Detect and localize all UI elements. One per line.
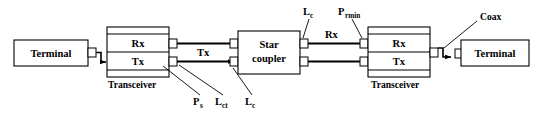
coax-left-line (96, 53, 106, 63)
parameter-l-c-top-base: L (303, 6, 310, 17)
parameter-l-ct-base: L (215, 96, 222, 107)
coax-annotation-label: Coax (480, 11, 502, 22)
star-coupler-label-line1: Star (259, 39, 279, 50)
parameter-l-c-left-sub: c (252, 102, 256, 110)
transceiver-right-rx-label: Rx (393, 38, 407, 49)
leader-p-rmin (352, 19, 362, 38)
parameter-p-rmin-base: P (338, 6, 345, 17)
parameter-l-ct-sub: ct (222, 102, 228, 110)
transceiver-left-tx-label: Tx (132, 56, 145, 67)
coax-right-line (438, 48, 451, 57)
leader-p-s (163, 66, 200, 95)
transceiver-left-caption: Transceiver (108, 79, 157, 90)
parameter-label-p-s: P s (193, 96, 203, 110)
star-coupler-in-lower-connector-icon (230, 57, 238, 66)
terminal-left-connector-icon (88, 48, 96, 57)
leader-l-c-top (303, 19, 309, 38)
terminal-left-label: Terminal (30, 48, 71, 59)
parameter-p-s-base: P (193, 96, 200, 107)
star-coupler-label-line2: coupler (252, 53, 286, 64)
star-coupler-in-upper-connector-icon (230, 39, 238, 48)
parameter-label-l-c-top: L c (303, 6, 314, 20)
transceiver-left-rx-connector-icon (169, 39, 177, 48)
parameter-label-l-c-left: L c (245, 96, 256, 110)
parameter-l-c-left-base: L (245, 96, 252, 107)
rx-right-signal-label: Rx (325, 29, 339, 40)
star-coupler-out-upper-connector-icon (300, 39, 308, 48)
transceiver-left-group: Rx Tx Transceiver (107, 27, 177, 90)
fiber-left-pair: Tx (177, 44, 237, 62)
diagram-canvas: Terminal Rx Tx Transceiver (0, 0, 540, 118)
tx-left-signal-label: Tx (197, 47, 210, 58)
terminal-left-group: Terminal (14, 40, 96, 66)
parameter-label-l-ct: L ct (215, 96, 228, 110)
transceiver-right-tx-label: Tx (393, 56, 406, 67)
transceiver-right-coax-connector-icon (430, 48, 438, 57)
terminal-right-group: Terminal (455, 40, 529, 66)
transceiver-right-rx-connector-icon (360, 39, 368, 48)
coax-right-link (430, 48, 451, 57)
transceiver-right-group: Rx Tx Transceiver (360, 27, 430, 90)
parameter-p-rmin-sub: rmin (345, 12, 360, 20)
star-coupler-group: Star coupler (230, 31, 308, 74)
leader-l-ct (179, 65, 223, 95)
transceiver-right-caption: Transceiver (371, 79, 420, 90)
transceiver-left-rx-label: Rx (132, 38, 146, 49)
parameter-label-p-rmin: P rmin (338, 6, 360, 20)
parameter-l-c-top-sub: c (310, 12, 314, 20)
transceiver-left-tx-connector-icon (169, 57, 177, 66)
network-block-diagram: Terminal Rx Tx Transceiver (0, 0, 540, 118)
fiber-right-pair: Rx (308, 29, 367, 62)
parameter-p-s-sub: s (200, 102, 203, 110)
transceiver-right-tx-connector-icon (360, 57, 368, 66)
star-coupler-out-lower-connector-icon (300, 57, 308, 66)
terminal-right-label: Terminal (474, 48, 515, 59)
coax-left-link (96, 53, 106, 63)
